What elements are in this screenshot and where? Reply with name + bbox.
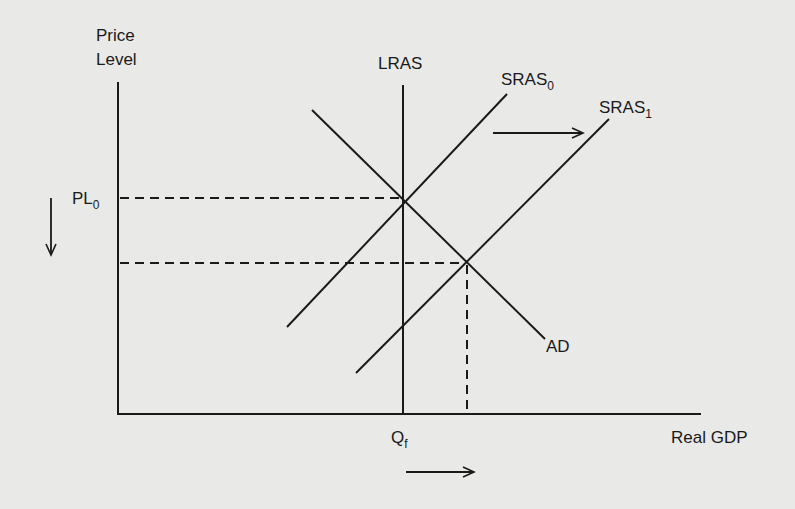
qf-label: Qf <box>391 428 408 451</box>
ad-label: AD <box>546 337 570 356</box>
sras1-label: SRAS1 <box>599 98 652 121</box>
sras1-line <box>356 119 609 373</box>
sras0-line <box>287 94 507 327</box>
pl0-label: PL0 <box>72 189 100 212</box>
ad-as-diagram: Price Level Real GDP LRAS AD SRAS0 SRAS1… <box>0 0 795 509</box>
x-axis-label: Real GDP <box>671 428 748 447</box>
y-axis-label-line2: Level <box>96 50 137 69</box>
lras-label: LRAS <box>378 54 422 73</box>
sras0-label: SRAS0 <box>501 70 554 93</box>
y-axis-label-line1: Price <box>96 26 135 45</box>
ad-line <box>312 110 545 339</box>
